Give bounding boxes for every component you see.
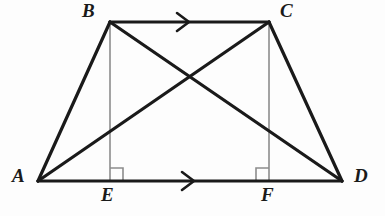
right-angle-E-icon <box>110 168 123 181</box>
vertex-label-D: D <box>354 166 368 185</box>
vertex-label-A: A <box>12 166 25 185</box>
vertex-label-C: C <box>280 1 293 20</box>
right-angle-F-icon <box>256 168 269 181</box>
vertex-label-B: B <box>82 1 95 20</box>
vertex-label-E: E <box>101 185 114 204</box>
vertex-label-F: F <box>261 185 274 204</box>
geometry-figure: A B C D E F <box>0 0 385 216</box>
geometry-canvas <box>0 0 385 216</box>
